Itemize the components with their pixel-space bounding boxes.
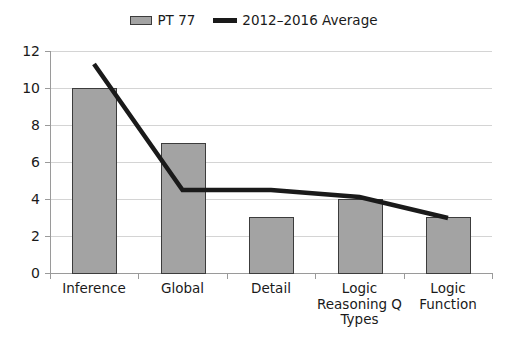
- x-tick-line: Reasoning Q: [313, 297, 406, 313]
- y-axis-ticks: [45, 51, 50, 273]
- bar-detail: [249, 217, 293, 273]
- x-tick-label-global: Global: [138, 281, 227, 297]
- x-tick-line: Logic: [313, 281, 406, 297]
- x-tick-line: Global: [138, 281, 227, 297]
- x-axis-ticks: [50, 273, 492, 279]
- x-tick-label-inference: Inference: [50, 281, 138, 297]
- x-tick-line: Detail: [227, 281, 315, 297]
- bar-inference: [72, 88, 116, 273]
- x-tick-line: Types: [313, 312, 406, 328]
- bar-logic-function: [426, 217, 470, 273]
- average-line-series: [94, 64, 448, 218]
- chart-container: PT 77 2012–2016 Average 12 10 8 6 4 2 0: [0, 0, 508, 358]
- x-tick-line: Function: [404, 297, 492, 313]
- x-tick-line: Logic: [404, 281, 492, 297]
- x-tick-label-detail: Detail: [227, 281, 315, 297]
- x-tick-line: Inference: [50, 281, 138, 297]
- x-tick-label-logic-reasoning-q-types: Logic Reasoning Q Types: [313, 281, 406, 328]
- bar-logic-reasoning-q-types: [338, 199, 382, 273]
- bar-global: [161, 143, 205, 273]
- x-tick-label-logic-function: Logic Function: [404, 281, 492, 312]
